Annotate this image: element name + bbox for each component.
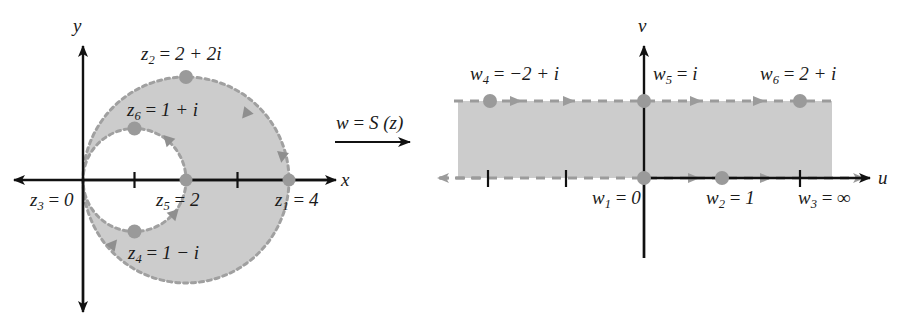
point-w5-dot — [637, 94, 651, 108]
w-axis-label-v: v — [638, 16, 646, 35]
point-z2-dot — [179, 70, 193, 84]
point-label-w2-text: w2 = 1 — [706, 187, 755, 208]
point-label-w3: w3 = ∞ — [798, 188, 851, 210]
w-axis-label-u: u — [878, 168, 888, 187]
point-label-z1-text: z1 = 4 — [275, 189, 318, 210]
point-label-w1-text: w1 = 0 — [592, 187, 641, 208]
point-label-z5: z5 = 2 — [156, 190, 199, 212]
point-w1-dot — [637, 171, 651, 185]
z-axis-label-y: y — [73, 16, 81, 35]
point-w4-dot — [483, 94, 497, 108]
point-w6-dot — [793, 94, 807, 108]
point-label-w5: w5 = i — [653, 64, 697, 86]
point-label-z2: z2 = 2 + 2i — [141, 44, 222, 66]
conformal-mapping-figure: y x z2 = 2 + 2i z6 = 1 + i z3 = 0 z5 = 2… — [0, 0, 901, 332]
w-plane-graphic — [420, 0, 901, 332]
point-label-w2: w2 = 1 — [706, 188, 755, 210]
point-label-w1: w1 = 0 — [592, 188, 641, 210]
point-label-z4: z4 = 1 − i — [128, 243, 199, 265]
point-label-w5-text: w5 = i — [653, 63, 697, 84]
point-label-z3-text: z3 = 0 — [30, 189, 73, 210]
point-label-w4-text: w4 = −2 + i — [470, 63, 559, 84]
point-label-z1: z1 = 4 — [275, 190, 318, 212]
point-label-w6-text: w6 = 2 + i — [760, 63, 836, 84]
point-z6-dot — [128, 122, 142, 136]
point-label-z2-text: z2 = 2 + 2i — [141, 43, 222, 64]
point-z1-dot — [283, 174, 296, 187]
mapping-arrow-graphic — [330, 128, 420, 158]
point-z4-dot — [128, 225, 142, 239]
point-label-w4: w4 = −2 + i — [470, 64, 559, 86]
point-w2-dot — [715, 171, 729, 185]
point-label-w3-text: w3 = ∞ — [798, 187, 851, 208]
point-label-z6-text: z6 = 1 + i — [127, 99, 198, 120]
point-label-z3: z3 = 0 — [30, 190, 73, 212]
point-z5-dot — [180, 174, 193, 187]
z-axis-label-x: x — [341, 170, 349, 189]
point-label-w6: w6 = 2 + i — [760, 64, 836, 86]
point-label-z5-text: z5 = 2 — [156, 189, 199, 210]
point-label-z6: z6 = 1 + i — [127, 100, 198, 122]
point-label-z4-text: z4 = 1 − i — [128, 242, 199, 263]
